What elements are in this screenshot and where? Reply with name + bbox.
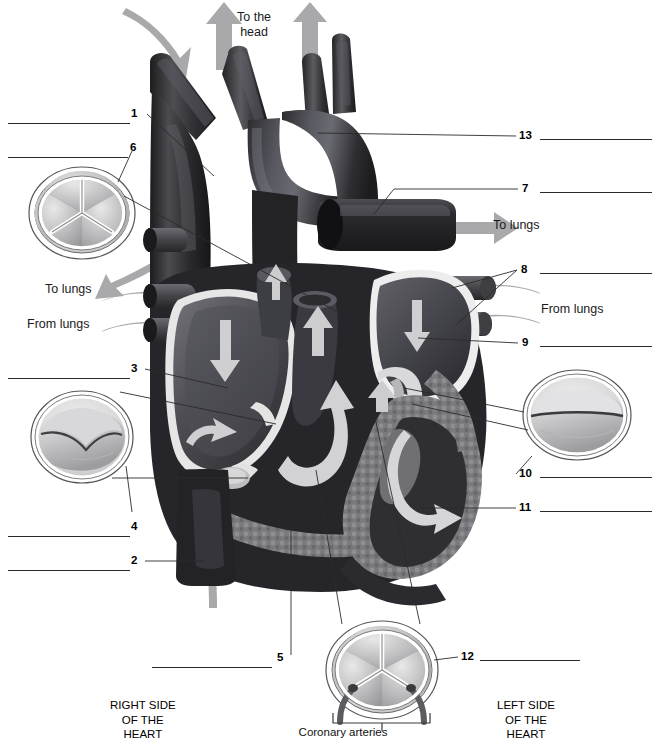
callout-number-13: 13 bbox=[519, 130, 532, 142]
inset-av-left bbox=[523, 370, 631, 460]
answer-blank-8[interactable] bbox=[540, 273, 652, 274]
callout-number-10: 10 bbox=[519, 468, 532, 480]
callout-number-5: 5 bbox=[277, 652, 283, 664]
answer-blank-9[interactable] bbox=[540, 346, 652, 347]
callout-number-12: 12 bbox=[461, 651, 474, 663]
answer-blank-11[interactable] bbox=[540, 511, 652, 512]
inferior-vena-cava bbox=[176, 469, 236, 586]
answer-blank-12[interactable] bbox=[480, 660, 580, 661]
callout-number-1: 1 bbox=[131, 108, 137, 120]
answer-blank-6[interactable] bbox=[8, 157, 128, 158]
answer-blank-3[interactable] bbox=[8, 378, 130, 379]
caption-right-side: RIGHT SIDEOF THEHEART bbox=[110, 698, 176, 742]
caption-left-side: LEFT SIDEOF THEHEART bbox=[497, 698, 555, 742]
answer-blank-2[interactable] bbox=[8, 570, 130, 571]
callout-number-3: 3 bbox=[131, 363, 137, 375]
coronary-arteries-caption: Coronary arteries bbox=[299, 726, 388, 738]
flow-label-from-lungs-left: From lungs bbox=[27, 317, 90, 332]
heart-diagram-worksheet: 16342513789101112 To theheadTo lungsTo l… bbox=[0, 0, 664, 747]
callout-number-9: 9 bbox=[522, 337, 528, 349]
inset-av-right bbox=[31, 391, 133, 483]
answer-blank-5[interactable] bbox=[152, 667, 272, 668]
answer-blank-4[interactable] bbox=[8, 536, 130, 537]
flow-label-to-lungs-right: To lungs bbox=[493, 218, 540, 233]
heart-anatomy-illustration bbox=[0, 0, 664, 747]
inset-semilunar-pulmonary bbox=[29, 167, 135, 259]
flow-label-to-lungs-left: To lungs bbox=[45, 282, 92, 297]
inset-semilunar-aortic bbox=[326, 621, 438, 731]
answer-blank-7[interactable] bbox=[540, 192, 652, 193]
callout-number-11: 11 bbox=[519, 502, 531, 514]
flow-label-to-the-head: To thehead bbox=[237, 10, 271, 40]
callout-number-8: 8 bbox=[521, 264, 527, 276]
callout-number-7: 7 bbox=[522, 183, 528, 195]
callout-number-6: 6 bbox=[130, 142, 136, 154]
flow-label-from-lungs-right: From lungs bbox=[541, 302, 604, 317]
answer-blank-10[interactable] bbox=[540, 477, 652, 478]
callout-number-4: 4 bbox=[131, 521, 137, 533]
answer-blank-1[interactable] bbox=[8, 123, 130, 124]
answer-blank-13[interactable] bbox=[540, 139, 652, 140]
callout-number-2: 2 bbox=[131, 555, 137, 567]
